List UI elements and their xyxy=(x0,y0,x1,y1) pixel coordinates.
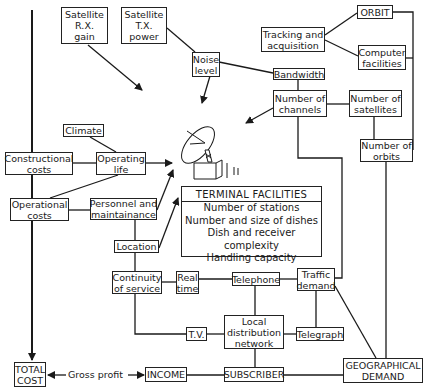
node-satellite-tx-power: Satellite T.X. power xyxy=(121,7,167,44)
node-text: Location xyxy=(116,241,156,252)
node-text: T.V. xyxy=(189,329,205,340)
node-text: network xyxy=(235,338,274,349)
node-text: costs xyxy=(27,210,52,221)
terminal-facilities-item: Handling capacity xyxy=(182,252,321,265)
node-text: demand xyxy=(297,280,336,291)
node-operating-life: Operating life xyxy=(96,152,146,175)
node-text: Local xyxy=(242,316,267,327)
node-traffic-demand: Traffic demand xyxy=(297,268,335,291)
node-text: Noise xyxy=(193,54,219,65)
node-text: Number of xyxy=(275,93,325,104)
node-total-cost: TOTAL COST xyxy=(14,362,46,387)
node-text: of service xyxy=(114,283,160,294)
node-text: Computer xyxy=(358,47,405,58)
node-text: Continuity xyxy=(113,272,162,283)
node-tracking-acquisition: Tracking and acquisition xyxy=(261,27,325,52)
node-text: Telephone xyxy=(232,274,280,285)
node-text: facilities xyxy=(362,58,401,69)
node-text: Constructional xyxy=(5,153,74,164)
node-text: life xyxy=(114,164,128,175)
node-text: Climate xyxy=(65,125,102,136)
gross-profit-label: Gross profit xyxy=(68,369,123,380)
node-text: Satellite xyxy=(65,9,104,20)
node-number-of-orbits: Number of orbits xyxy=(360,139,413,162)
node-text: gain xyxy=(74,31,95,42)
node-text: costs xyxy=(27,164,52,175)
node-text: channels xyxy=(279,104,322,115)
node-text: ORBIT xyxy=(360,7,389,18)
node-text: Number of xyxy=(361,140,411,151)
node-text: orbits xyxy=(373,151,400,162)
node-climate: Climate xyxy=(63,124,104,137)
node-subscriber: SUBSCRIBER xyxy=(224,367,284,382)
node-text: INCOME xyxy=(147,369,185,380)
terminal-facilities-box: TERMINAL FACILITIES Number of stations N… xyxy=(181,186,322,257)
node-text: Operational xyxy=(12,199,68,210)
node-text: time xyxy=(177,283,198,294)
node-text: maintainance xyxy=(91,209,156,220)
node-telegraph: Telegraph xyxy=(296,327,344,341)
satellite-system-diagram: Satellite R.X. gain Satellite T.X. power… xyxy=(0,0,427,390)
node-text: acquisition xyxy=(267,40,319,51)
node-text: Tracking and xyxy=(263,29,323,40)
node-text: R.X. xyxy=(75,20,94,31)
node-text: distribution xyxy=(227,327,281,338)
node-operational-costs: Operational costs xyxy=(10,198,69,221)
node-text: Personnel and xyxy=(90,198,157,209)
node-text: Bandwidth xyxy=(274,69,325,80)
terminal-facilities-title: TERMINAL FACILITIES xyxy=(182,187,321,202)
node-text: COST xyxy=(17,375,43,386)
node-text: level xyxy=(195,65,218,76)
node-text: power xyxy=(129,31,158,42)
node-real-time: Real time xyxy=(176,271,199,294)
node-text: Number of xyxy=(350,93,400,104)
node-noise-level: Noise level xyxy=(192,52,220,77)
node-constructional-costs: Constructional costs xyxy=(5,152,73,175)
node-bandwidth: Bandwidth xyxy=(273,68,325,80)
terminal-facilities-item: Number of stations xyxy=(182,202,321,215)
satellite-dish-antenna-icon xyxy=(175,121,238,179)
terminal-facilities-item: Number and size of dishes xyxy=(182,215,321,228)
node-text: TOTAL xyxy=(15,364,45,375)
node-text: Satellite xyxy=(125,9,164,20)
node-text: Traffic xyxy=(302,269,331,280)
node-text: DEMAND xyxy=(362,371,404,382)
node-number-of-channels: Number of channels xyxy=(273,90,327,117)
node-local-distribution-network: Local distribution network xyxy=(224,315,284,349)
node-text: satellites xyxy=(354,104,397,115)
node-personnel-maintainance: Personnel and maintainance xyxy=(90,198,157,220)
node-text: SUBSCRIBER xyxy=(224,369,285,380)
node-tv: T.V. xyxy=(186,327,207,341)
node-geographical-demand: GEOGRAPHICAL DEMAND xyxy=(343,358,423,383)
node-text: T.X. xyxy=(135,20,152,31)
node-telephone: Telephone xyxy=(232,272,280,286)
node-satellite-rx-gain: Satellite R.X. gain xyxy=(61,7,108,44)
node-orbit: ORBIT xyxy=(357,5,393,19)
node-text: Real xyxy=(177,272,197,283)
node-computer-facilities: Computer facilities xyxy=(358,45,406,70)
node-location: Location xyxy=(114,240,159,253)
terminal-facilities-item: Dish and receiver complexity xyxy=(182,227,321,252)
node-text: Telegraph xyxy=(297,329,343,340)
node-text: GEOGRAPHICAL xyxy=(345,360,420,371)
node-number-of-satellites: Number of satellites xyxy=(349,90,402,117)
node-text: Operating xyxy=(97,153,145,164)
node-continuity-of-service: Continuity of service xyxy=(112,271,162,294)
node-income: INCOME xyxy=(145,367,187,382)
